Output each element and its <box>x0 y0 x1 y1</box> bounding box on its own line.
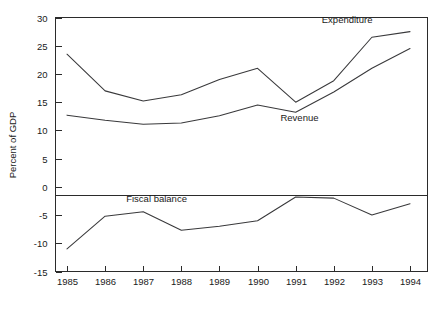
x-tick-label-1994: 1994 <box>400 276 421 287</box>
x-tick-label-1987: 1987 <box>133 276 154 287</box>
series-label-fiscal-balance: Fiscal balance <box>126 193 187 204</box>
y-tick-label--5: -5 <box>39 210 47 221</box>
y-tick-label-15: 15 <box>37 97 48 108</box>
y-tick-label-30: 30 <box>37 13 48 24</box>
series-annotations-group: ExpenditureRevenueFiscal balance <box>126 14 372 203</box>
y-axis-title: Percent of GDP <box>7 112 18 179</box>
series-line-fiscal-balance <box>67 197 410 249</box>
x-axis-tick-labels: 1985198619871988198919901991199219931994 <box>57 276 421 287</box>
plot-frame <box>56 18 428 272</box>
y-tick-label-0: 0 <box>42 182 47 193</box>
y-tick-label--10: -10 <box>34 238 48 249</box>
series-line-revenue <box>67 49 410 125</box>
series-label-expenditure: Expenditure <box>322 14 373 25</box>
series-lines-group <box>67 32 410 249</box>
chart-figure: 302520151050-5-10-15 1985198619871988198… <box>0 0 441 313</box>
x-tick-label-1991: 1991 <box>286 276 307 287</box>
y-tick-label-5: 5 <box>42 154 47 165</box>
x-tick-label-1988: 1988 <box>171 276 192 287</box>
y-tick-label-25: 25 <box>37 41 48 52</box>
x-axis-ticks <box>68 266 411 272</box>
y-tick-label-20: 20 <box>37 69 48 80</box>
x-tick-label-1989: 1989 <box>209 276 230 287</box>
series-label-revenue: Revenue <box>280 112 318 123</box>
x-tick-label-1990: 1990 <box>248 276 269 287</box>
x-tick-label-1992: 1992 <box>324 276 345 287</box>
x-tick-label-1986: 1986 <box>95 276 116 287</box>
x-tick-label-1985: 1985 <box>57 276 78 287</box>
y-tick-label-10: 10 <box>37 125 48 136</box>
series-line-expenditure <box>67 32 410 103</box>
y-tick-label--15: -15 <box>34 267 48 278</box>
y-axis-tick-labels: 302520151050-5-10-15 <box>34 13 48 278</box>
y-axis-ticks <box>56 19 62 273</box>
line-chart-svg: 302520151050-5-10-15 1985198619871988198… <box>0 0 441 313</box>
x-tick-label-1993: 1993 <box>362 276 383 287</box>
